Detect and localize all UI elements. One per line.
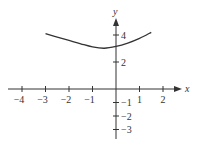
x-tick-label: 2 xyxy=(161,94,166,105)
axes xyxy=(8,18,182,139)
ticks: −4−3−2−11242−1−2−3 xyxy=(14,30,166,136)
y-tick-label: −2 xyxy=(121,111,132,122)
x-tick-label: −4 xyxy=(14,94,25,105)
y-axis-label: y xyxy=(112,6,118,17)
x-axis-arrow-icon xyxy=(174,86,182,92)
x-axis-label: x xyxy=(184,83,190,94)
y-tick-label: 4 xyxy=(121,30,126,41)
chart: −4−3−2−11242−1−2−3 x y xyxy=(0,0,197,147)
x-tick-label: 1 xyxy=(137,94,142,105)
y-tick-label: 2 xyxy=(121,57,126,68)
x-tick-label: −3 xyxy=(37,94,48,105)
data-curve xyxy=(46,32,152,48)
x-tick-label: −1 xyxy=(84,94,95,105)
y-tick-label: −3 xyxy=(121,124,132,135)
y-axis-arrow-icon xyxy=(113,18,119,26)
x-tick-label: −2 xyxy=(61,94,72,105)
y-tick-label: −1 xyxy=(121,97,132,108)
